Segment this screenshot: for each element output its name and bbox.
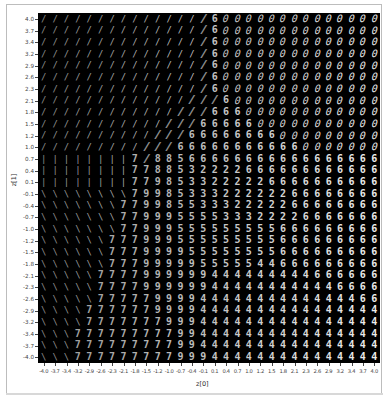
digit-cell: 6 [357,153,368,165]
digit-cell: 9 [163,293,174,305]
digit-cell: 5 [186,200,197,212]
digit-cell: 6 [346,281,357,293]
digit-cell: 4 [255,328,266,340]
digit-cell: 6 [289,176,300,188]
digit-cell: 7 [129,223,140,235]
digit-cell: 5 [243,235,254,247]
y-tick-mark [35,311,38,312]
digit-cell: 9 [163,235,174,247]
digit-cell: \ [61,270,72,282]
digit-cell: / [61,71,72,83]
digit-cell: 9 [152,235,163,247]
digit-cell: 6 [323,153,334,165]
digit-cell: 4 [334,293,345,305]
digit-cell: 4 [243,340,254,352]
x-tick-mark [169,363,170,366]
digit-cell: / [49,48,60,60]
digit-cell: \ [72,223,83,235]
x-tick-mark [272,363,273,366]
y-tick-label: 0.4 [14,168,34,174]
digit-cell: 6 [369,235,380,247]
digit-cell: / [129,48,140,60]
digit-cell: 4 [243,316,254,328]
digit-cell: 6 [277,153,288,165]
digit-cell: 6 [346,246,357,258]
digit-cell: 9 [186,305,197,317]
digit-cell: 7 [106,316,117,328]
digit-cell: 6 [334,223,345,235]
digit-cell: 7 [141,176,152,188]
y-tick-label: -1.0 [14,226,34,232]
digit-cell: 4 [277,328,288,340]
x-tick-mark [295,363,296,366]
digit-cell: 6 [198,118,209,130]
digit-cell: 7 [129,270,140,282]
y-tick-label: -3.4 [14,331,34,337]
digit-cell: 2 [220,188,231,200]
digit-cell: 3 [220,200,231,212]
digit-cell: 7 [129,351,140,363]
digit-cell: 3 [209,188,220,200]
digit-cell: | [106,176,117,188]
digit-cell: 4 [232,270,243,282]
digit-cell: / [141,60,152,72]
digit-cell: / [49,141,60,153]
digit-cell: 9 [152,270,163,282]
digit-cell: 6 [312,165,323,177]
digit-cell: 6 [357,188,368,200]
digit-cell: 4 [323,316,334,328]
digit-cell: 0 [367,71,380,83]
digit-cell: \ [61,281,72,293]
digit-cell: / [84,25,95,37]
digit-cell: 7 [118,305,129,317]
digit-cell: 6 [232,153,243,165]
digit-cell: 7 [141,340,152,352]
digit-cell: 6 [232,118,243,130]
digit-cell: | [61,153,72,165]
digit-cell: | [61,165,72,177]
digit-cell: 2 [220,165,231,177]
digit-cell: 4 [277,351,288,363]
y-tick-mark [35,241,38,242]
digit-cell: 2 [209,165,220,177]
digit-cell: 7 [106,305,117,317]
digit-cell: 4 [266,293,277,305]
digit-cell: / [141,36,152,48]
digit-cell: 9 [186,281,197,293]
digit-cell: 6 [323,270,334,282]
digit-cell: / [106,95,117,107]
digit-cell: \ [38,340,49,352]
digit-cell: 5 [175,200,186,212]
y-tick-mark [35,299,38,300]
digit-cell: 5 [243,258,254,270]
digit-cell: 5 [232,235,243,247]
digit-cell: 5 [198,258,209,270]
digit-cell: / [95,130,106,142]
digit-cell: 4 [198,293,209,305]
digit-cell: 6 [277,235,288,247]
digit-cell: 6 [323,235,334,247]
digit-cell: \ [49,258,60,270]
digit-cell: 6 [220,130,231,142]
digit-cell: / [106,25,117,37]
y-tick-label: -2.6 [14,296,34,302]
digit-cell: 4 [289,281,300,293]
y-tick-label: 2.6 [14,74,34,80]
digit-cell: 6 [266,141,277,153]
digit-cell: 5 [243,223,254,235]
digit-cell: 7 [129,340,140,352]
digit-cell: 7 [118,200,129,212]
digit-cell: 3 [232,211,243,223]
digit-cell: 6 [369,293,380,305]
y-tick-label: -2.9 [14,308,34,314]
digit-cell: \ [49,281,60,293]
x-tick-mark [101,363,102,366]
digit-cell: 6 [243,141,254,153]
digit-cell: 4 [323,281,334,293]
digit-cell: 7 [141,293,152,305]
y-tick-mark [35,252,38,253]
digit-cell: 5 [220,246,231,258]
y-tick-mark [35,171,38,172]
digit-cell: \ [38,305,49,317]
x-tick-mark [306,363,307,366]
